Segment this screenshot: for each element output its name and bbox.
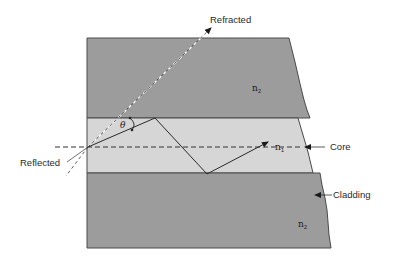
refracted-label: Refracted (210, 14, 251, 25)
bottom-cladding (87, 173, 331, 248)
reflected-leader (67, 147, 88, 162)
reflected-label: Reflected (20, 157, 60, 168)
angle-label: θ (120, 120, 126, 130)
core-label: Core (330, 141, 351, 152)
cladding-label: Cladding (333, 189, 371, 200)
angle-arc-end-top (129, 117, 132, 120)
reflected-ray (66, 147, 88, 176)
angle-arc-end-bottom (131, 129, 134, 132)
fiber-diagram: θ Refracted Reflected Core Cladding n2 n… (0, 0, 395, 261)
top-cladding (87, 38, 310, 118)
